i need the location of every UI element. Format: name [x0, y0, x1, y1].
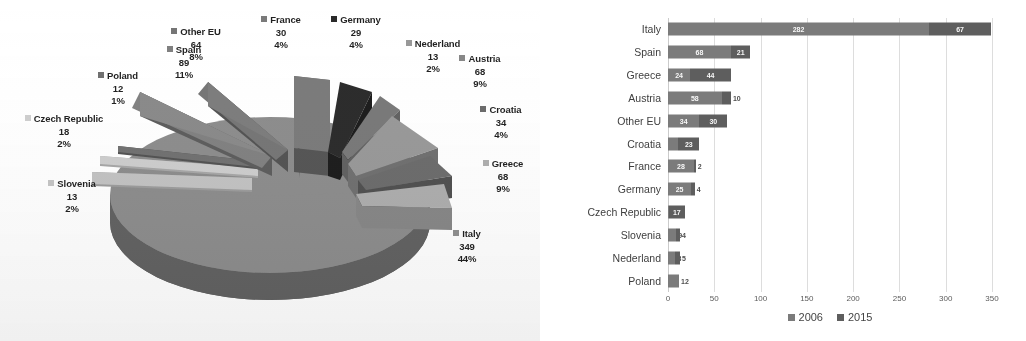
bar-value-label: 12: [681, 277, 689, 284]
legend-swatch-icon: [98, 72, 104, 78]
bar-row[interactable]: Czech Republic117: [668, 201, 992, 224]
bar-row[interactable]: Spain6821: [668, 41, 992, 64]
legend-swatch-icon: [406, 40, 412, 46]
x-axis-tick-label: 300: [939, 294, 952, 303]
legend-swatch-icon: [331, 16, 337, 22]
bar-segment-2006[interactable]: 24: [668, 69, 690, 82]
legend-label: 2006: [799, 311, 823, 323]
bar-row[interactable]: Croatia1123: [668, 132, 992, 155]
legend-label: 2015: [848, 311, 872, 323]
pie-chart-plot-area: Other EU 64 8% France 30 4% Germany 29 4…: [0, 0, 540, 341]
bar-segment-2015[interactable]: 5: [675, 251, 680, 264]
pie-label-germany: Germany 29 4%: [316, 14, 396, 52]
bar-segment-2006[interactable]: 68: [668, 46, 731, 59]
bar-segment-2015[interactable]: 30: [699, 114, 727, 127]
bar-stack: 3430: [668, 114, 727, 127]
pie-label-italy: Italy 349 44%: [436, 228, 498, 266]
bar-stack: 5810: [668, 91, 731, 104]
bar-chart-x-axis: 050100150200250300350: [668, 294, 992, 310]
bar-chart-plot-area: Italy28267Spain6821Greece2444Austria5810…: [668, 18, 992, 292]
bar-value-label: 5: [682, 254, 686, 261]
bar-category-label: Austria: [628, 92, 661, 104]
bar-stack: 85: [668, 251, 680, 264]
bar-stack: 12: [668, 274, 679, 287]
bar-row[interactable]: Other EU3430: [668, 109, 992, 132]
bar-category-label: France: [628, 160, 661, 172]
bar-segment-2015[interactable]: 67: [929, 23, 991, 36]
bar-segment-2015[interactable]: 2: [694, 160, 696, 173]
bar-segment-2015[interactable]: 4: [676, 228, 680, 241]
bar-value-label: 282: [793, 26, 805, 33]
bar-value-label: 2: [698, 163, 702, 170]
bar-category-label: Germany: [618, 183, 661, 195]
bar-category-label: Nederland: [613, 252, 661, 264]
bar-segment-2006[interactable]: 8: [668, 251, 675, 264]
bar-row[interactable]: Slovenia94: [668, 224, 992, 247]
bar-segment-2006[interactable]: 58: [668, 91, 722, 104]
bar-stack: 28267: [668, 23, 991, 36]
bar-stack: 282: [668, 160, 696, 173]
bar-category-label: Greece: [627, 69, 661, 81]
bar-segment-2006[interactable]: 282: [668, 23, 929, 36]
pie-label-poland: Poland 12 1%: [84, 70, 152, 108]
bar-value-label: 4: [682, 231, 686, 238]
pie-label-spain: Spain 89 11%: [152, 44, 216, 82]
bar-row[interactable]: Greece2444: [668, 64, 992, 87]
bar-segment-2015[interactable]: 44: [690, 69, 731, 82]
bar-value-label: 17: [673, 209, 681, 216]
legend-swatch-icon: [480, 106, 486, 112]
bar-segment-2015[interactable]: 17: [669, 206, 685, 219]
bar-row[interactable]: Austria5810: [668, 87, 992, 110]
bar-stack: 1123: [668, 137, 699, 150]
bar-stack: 254: [668, 183, 695, 196]
bar-value-label: 68: [696, 49, 704, 56]
legend-swatch-icon: [171, 28, 177, 34]
bar-row[interactable]: Poland12: [668, 269, 992, 292]
bar-segment-2015[interactable]: 23: [678, 137, 699, 150]
legend-item-2006[interactable]: 2006: [788, 311, 823, 323]
pie-chart-panel: Other EU 64 8% France 30 4% Germany 29 4…: [0, 0, 540, 341]
bar-segment-2015[interactable]: 10: [722, 91, 731, 104]
bar-row[interactable]: Italy28267: [668, 18, 992, 41]
bar-row[interactable]: Nederland85: [668, 246, 992, 269]
bar-segment-2015[interactable]: 21: [731, 46, 750, 59]
x-axis-tick-label: 200: [846, 294, 859, 303]
pie-label-slovenia: Slovenia 13 2%: [34, 178, 110, 216]
pie-label-czech-republic: Czech Republic 18 2%: [8, 113, 120, 151]
legend-swatch-icon: [25, 115, 31, 121]
bar-category-label: Italy: [642, 23, 661, 35]
bar-segment-2015[interactable]: 4: [691, 183, 695, 196]
pie-label-greece: Greece 68 9%: [470, 158, 536, 196]
x-axis-tick-label: 250: [893, 294, 906, 303]
bar-stack: 94: [668, 228, 680, 241]
bar-chart-panel: Italy28267Spain6821Greece2444Austria5810…: [540, 0, 1026, 341]
pie-label-france: France 30 4%: [248, 14, 314, 52]
bar-stack: 2444: [668, 69, 731, 82]
two-panel-chart-figure: Other EU 64 8% France 30 4% Germany 29 4…: [0, 0, 1026, 341]
bar-value-label: 28: [677, 163, 685, 170]
gridline: [992, 18, 993, 292]
legend-swatch-icon: [48, 180, 54, 186]
bar-chart-legend: 20062015: [668, 311, 992, 323]
legend-item-2015[interactable]: 2015: [837, 311, 872, 323]
bar-segment-2006[interactable]: 11: [668, 137, 678, 150]
bar-value-label: 24: [675, 72, 683, 79]
bar-row[interactable]: Germany254: [668, 178, 992, 201]
bar-segment-2006[interactable]: 34: [668, 114, 699, 127]
bar-value-label: 4: [697, 186, 701, 193]
bar-category-label: Czech Republic: [587, 206, 661, 218]
bar-value-label: 21: [737, 49, 745, 56]
bar-value-label: 44: [707, 72, 715, 79]
legend-swatch-icon: [453, 230, 459, 236]
bar-segment-2006[interactable]: 28: [668, 160, 694, 173]
bar-row[interactable]: France282: [668, 155, 992, 178]
bar-value-label: 30: [709, 117, 717, 124]
bar-value-label: 58: [691, 94, 699, 101]
bar-segment-2006[interactable]: 9: [668, 228, 676, 241]
bar-segment-2006[interactable]: 12: [668, 274, 679, 287]
pie-label-austria: Austria 68 9%: [448, 53, 512, 91]
x-axis-tick-label: 150: [800, 294, 813, 303]
bar-value-label: 25: [676, 186, 684, 193]
bar-segment-2006[interactable]: 25: [668, 183, 691, 196]
legend-swatch-icon: [837, 314, 844, 321]
